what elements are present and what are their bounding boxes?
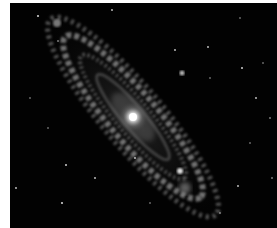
galaxy-image xyxy=(10,3,277,228)
galaxy-illustration xyxy=(10,3,277,228)
